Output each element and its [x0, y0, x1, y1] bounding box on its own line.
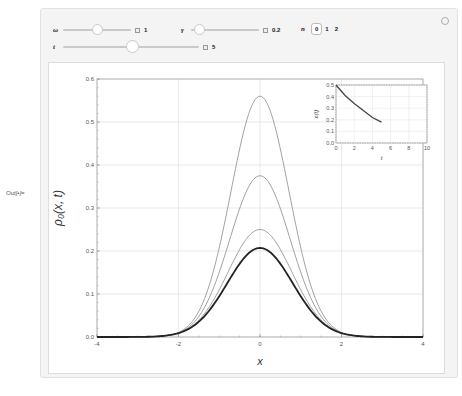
- svg-text:0.6: 0.6: [86, 76, 95, 82]
- svg-text:2: 2: [340, 341, 344, 347]
- svg-text:0.1: 0.1: [86, 291, 95, 297]
- svg-text:0.2: 0.2: [86, 248, 95, 254]
- svg-text:0.0: 0.0: [326, 140, 334, 146]
- svg-text:-4: -4: [94, 341, 100, 347]
- svg-text:x: x: [256, 355, 263, 367]
- svg-text:0.4: 0.4: [326, 94, 334, 100]
- svg-text:0: 0: [258, 341, 262, 347]
- svg-text:4: 4: [371, 145, 374, 151]
- svg-text:6: 6: [389, 145, 392, 151]
- svg-text:10: 10: [424, 145, 430, 151]
- svg-text:t: t: [381, 155, 383, 161]
- svg-text:0.5: 0.5: [326, 82, 334, 88]
- svg-text:0.1: 0.1: [326, 128, 334, 134]
- svg-text:0.4: 0.4: [86, 162, 95, 168]
- svg-text:4: 4: [421, 341, 425, 347]
- svg-text:0.3: 0.3: [86, 205, 95, 211]
- svg-text:0.3: 0.3: [326, 105, 334, 111]
- svg-text:8: 8: [407, 145, 410, 151]
- svg-text:0.5: 0.5: [86, 119, 95, 125]
- svg-text:2: 2: [353, 145, 356, 151]
- svg-text:ρ₀(x, t): ρ₀(x, t): [51, 190, 65, 227]
- inset-plot: 02468100.00.10.20.30.40.5tε(t): [313, 82, 430, 161]
- svg-text:-2: -2: [176, 341, 182, 347]
- density-plot: -4-20240.00.10.20.30.40.50.6xρ₀(x, t) 02…: [0, 0, 462, 396]
- svg-text:0.0: 0.0: [86, 334, 95, 340]
- svg-text:ε(t): ε(t): [313, 110, 319, 118]
- svg-text:0: 0: [334, 145, 337, 151]
- svg-text:0.2: 0.2: [326, 117, 334, 123]
